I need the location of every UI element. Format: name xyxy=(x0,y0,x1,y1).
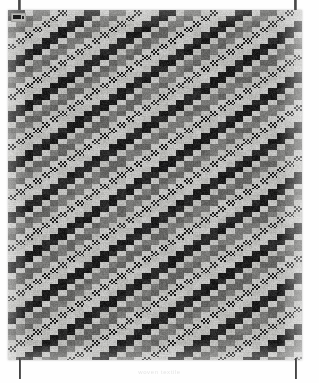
textile-panel xyxy=(8,10,302,360)
textile-photograph: woven textile xyxy=(0,0,319,383)
inventory-tag xyxy=(11,13,26,22)
tag-mark-secondary-icon xyxy=(22,16,24,19)
woven-pattern xyxy=(8,10,302,360)
caption-text: woven textile xyxy=(0,369,319,375)
tag-mark-icon xyxy=(13,15,21,19)
